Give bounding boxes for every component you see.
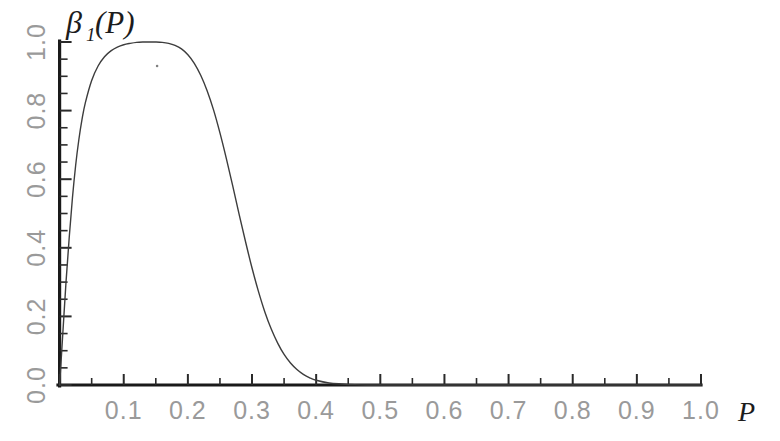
x-axis-title: P — [737, 396, 755, 427]
x-axis-tick-labels: 0.10.20.30.40.50.60.70.80.91.0 — [105, 396, 720, 424]
y-tick-label: 0.2 — [22, 298, 50, 336]
y-tick-label: 0.8 — [22, 92, 50, 130]
beta-power-function-chart: 0.10.20.30.40.50.60.70.80.91.0 0.00.20.4… — [0, 0, 780, 441]
data-curve-beta1 — [60, 42, 701, 385]
y-axis-ticks — [60, 42, 72, 385]
x-tick-label: 1.0 — [682, 396, 720, 424]
scan-speck-artifact — [156, 65, 159, 68]
x-tick-label: 0.5 — [361, 396, 399, 424]
y-axis-title-beta: β — [65, 4, 82, 40]
y-tick-label: 0.6 — [22, 160, 50, 198]
y-tick-label: 1.0 — [22, 23, 50, 61]
y-axis-tick-labels: 0.00.20.40.60.81.0 — [22, 23, 50, 404]
x-tick-label: 0.6 — [426, 396, 464, 424]
y-tick-label: 0.0 — [22, 366, 50, 404]
y-tick-label: 0.4 — [22, 229, 50, 267]
x-tick-label: 0.9 — [618, 396, 656, 424]
figure-container: 0.10.20.30.40.50.60.70.80.91.0 0.00.20.4… — [0, 0, 780, 441]
x-tick-label: 0.8 — [554, 396, 592, 424]
x-tick-label: 0.1 — [105, 396, 143, 424]
axis-lines — [58, 41, 701, 386]
y-axis-title: β 1 (P) — [65, 4, 135, 45]
y-axis-title-argument: (P) — [95, 5, 135, 40]
x-tick-label: 0.7 — [490, 396, 528, 424]
x-axis-ticks — [60, 374, 701, 385]
x-tick-label: 0.3 — [233, 396, 271, 424]
x-tick-label: 0.4 — [297, 396, 335, 424]
x-tick-label: 0.2 — [169, 396, 207, 424]
